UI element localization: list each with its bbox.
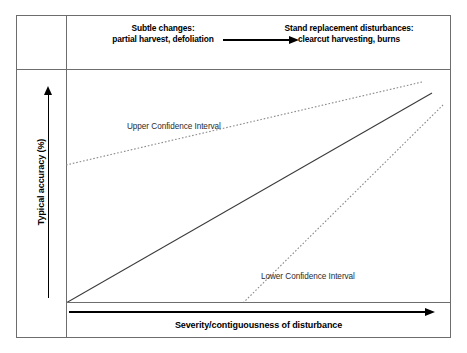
stand-replacement-line1: Stand replacement disturbances: — [254, 23, 444, 34]
right-arrow-icon — [69, 308, 435, 317]
stand-replacement-label: Stand replacement disturbances: clearcut… — [254, 23, 444, 45]
subtle-changes-line1: Subtle changes: — [88, 23, 238, 34]
x-axis-title: Severity/contiguousness of disturbance — [66, 320, 451, 330]
lower-confidence-interval-label: Lower Confidence Interval — [261, 272, 355, 281]
subtle-changes-label: Subtle changes: partial harvest, defolia… — [88, 23, 238, 45]
arrow-shaft — [48, 92, 50, 298]
upper-confidence-interval-label: Upper Confidence Interval — [127, 122, 221, 131]
y-axis-title: Typical accuracy (%) — [36, 89, 46, 275]
arrow-head — [425, 308, 435, 316]
trend-line — [66, 93, 432, 303]
header-band: Subtle changes: partial harvest, defolia… — [16, 15, 451, 70]
subtle-changes-line2: partial harvest, defoliation — [88, 34, 238, 45]
y-axis-column: Typical accuracy (%) — [16, 70, 66, 338]
plot-lines — [66, 70, 451, 303]
plot-area: Upper Confidence Interval Lower Confiden… — [66, 70, 451, 303]
header-content: Subtle changes: partial harvest, defolia… — [66, 15, 451, 69]
arrow-shaft — [69, 311, 427, 313]
x-axis-band: Severity/contiguousness of disturbance — [66, 303, 451, 338]
stand-replacement-line2: clearcut harvesting, burns — [254, 34, 444, 45]
upper-confidence-interval-line — [66, 82, 422, 165]
